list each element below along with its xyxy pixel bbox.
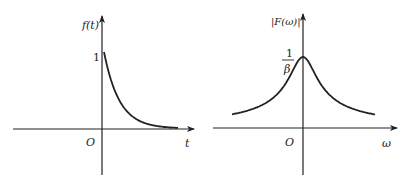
left-x-axis-label: t bbox=[185, 137, 190, 150]
right-plot: |F(ω)| 1 β O ω bbox=[213, 14, 397, 175]
right-origin-label: O bbox=[285, 136, 294, 149]
left-plot: f(t) 1 O t bbox=[13, 16, 194, 175]
left-origin-label: O bbox=[86, 136, 95, 149]
decay-curve bbox=[104, 52, 178, 128]
peak-label-numerator: 1 bbox=[286, 47, 293, 60]
right-x-axis-label: ω bbox=[382, 137, 391, 150]
left-y-axis-label: f(t) bbox=[81, 19, 99, 32]
right-y-axis-label: |F(ω)| bbox=[271, 16, 301, 28]
left-y-tick-label: 1 bbox=[93, 51, 100, 64]
peak-label-denominator: β bbox=[283, 63, 290, 76]
diagram-canvas: f(t) 1 O t |F(ω)| 1 β O ω bbox=[0, 0, 405, 186]
